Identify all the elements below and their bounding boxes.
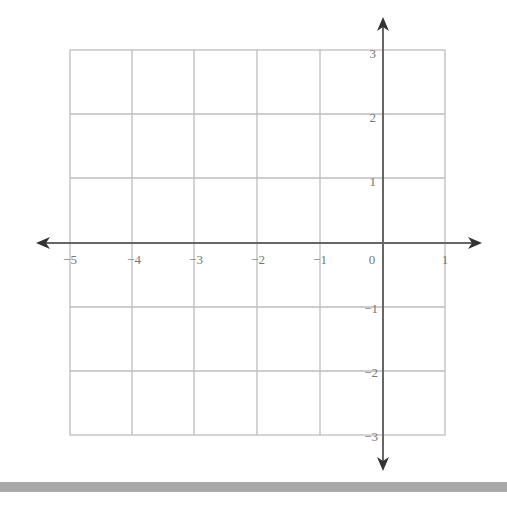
x-label: −4 [127, 252, 141, 267]
x-axis [36, 237, 482, 249]
y-label: −2 [364, 365, 378, 380]
x-label: −1 [313, 252, 327, 267]
x-label: −2 [251, 252, 265, 267]
x-label: −3 [189, 252, 203, 267]
x-label: 1 [442, 252, 449, 267]
y-tick-labels: 3 2 1 −1 −2 −3 [364, 46, 378, 444]
coordinate-plane: −5 −4 −3 −2 −1 0 1 3 2 1 −1 −2 −3 [0, 0, 507, 507]
y-label: −1 [364, 301, 378, 316]
y-label: −3 [364, 429, 378, 444]
bottom-divider-bar [0, 482, 507, 492]
x-label: −5 [63, 252, 77, 267]
y-label: 2 [370, 110, 377, 125]
x-tick-labels: −5 −4 −3 −2 −1 0 1 [63, 252, 448, 267]
y-label: 1 [370, 174, 377, 189]
x-label: 0 [369, 252, 376, 267]
y-label: 3 [370, 46, 377, 61]
